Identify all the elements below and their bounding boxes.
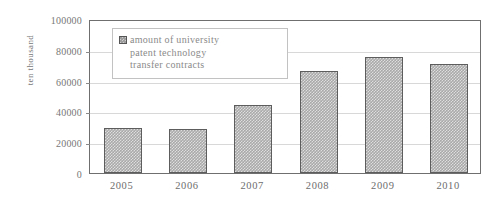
- bar-chart-figure: ten thousand 100000 80000 60000 40000 20…: [0, 0, 503, 203]
- bar-2005[interactable]: [104, 128, 142, 173]
- bar-2009[interactable]: [365, 57, 403, 173]
- legend: amount of universitypatent technologytra…: [112, 28, 288, 79]
- legend-line-2: patent technology: [130, 47, 206, 58]
- bar-cell-2009: [351, 21, 416, 173]
- legend-swatch-icon: [119, 36, 127, 44]
- x-tick-label-2009: 2009: [348, 180, 418, 191]
- legend-line-1: amount of university: [130, 34, 219, 45]
- legend-entry: amount of universitypatent technologytra…: [119, 34, 281, 72]
- x-tick-label-2007: 2007: [217, 180, 287, 191]
- y-tick-label-60000: 60000: [24, 76, 82, 87]
- y-tick-label-20000: 20000: [24, 138, 82, 149]
- y-tick-label-100000: 100000: [24, 15, 82, 26]
- bar-cell-2008: [286, 21, 351, 173]
- x-tick-label-2010: 2010: [413, 180, 483, 191]
- bar-cell-2010: [417, 21, 482, 173]
- y-axis-tick-labels: 100000 80000 60000 40000 20000 0: [22, 0, 82, 203]
- y-tick-label-40000: 40000: [24, 107, 82, 118]
- bar-2006[interactable]: [169, 129, 207, 173]
- bar-2007[interactable]: [234, 105, 272, 174]
- y-tick-label-80000: 80000: [24, 45, 82, 56]
- bar-2010[interactable]: [430, 64, 468, 173]
- x-tick-label-2006: 2006: [152, 180, 222, 191]
- y-tick-label-0: 0: [24, 169, 82, 180]
- legend-line-3: transfer contracts: [130, 59, 205, 70]
- legend-entry-label: amount of universitypatent technologytra…: [130, 34, 219, 72]
- x-tick-label-2008: 2008: [283, 180, 353, 191]
- x-tick-label-2005: 2005: [87, 180, 157, 191]
- bar-2008[interactable]: [300, 71, 338, 173]
